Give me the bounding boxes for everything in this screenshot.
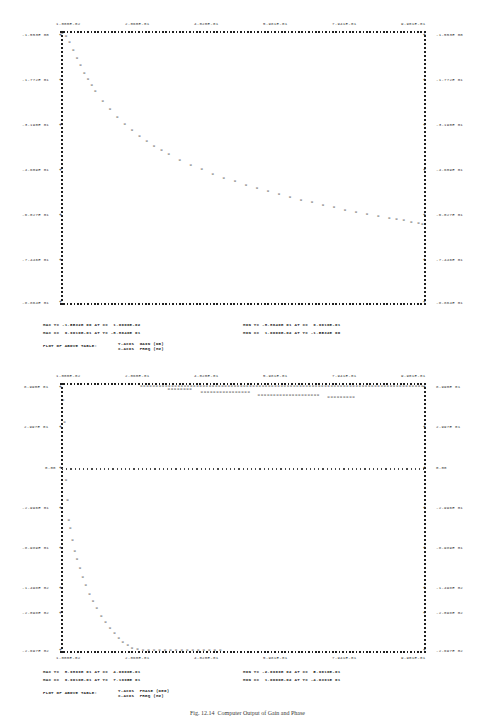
data-marker: X (204, 390, 207, 394)
data-marker: X (366, 212, 369, 216)
data-marker: X (90, 83, 93, 87)
data-marker: X (210, 390, 213, 394)
data-marker: X (318, 384, 321, 388)
data-marker: X (261, 393, 264, 397)
data-marker: X (334, 395, 337, 399)
data-marker: X (179, 158, 182, 162)
data-marker: X (245, 183, 248, 187)
data-marker: X (149, 384, 152, 388)
phase-ytick-left-6: -2.098E 02 (22, 611, 49, 616)
data-marker: X (156, 384, 159, 388)
data-marker: X (343, 395, 346, 399)
data-marker: X (279, 393, 282, 397)
data-marker: X (337, 395, 340, 399)
phase-ytick-right-4: -8.989E 01 (436, 546, 463, 551)
data-marker: X (314, 393, 317, 397)
data-marker: X (412, 384, 415, 388)
data-marker: X (190, 163, 193, 167)
data-marker: X (126, 643, 129, 647)
data-marker: X (305, 384, 308, 388)
phase-plot-of-label: PLOT OF ABOVE TABLE: (43, 691, 97, 696)
data-marker: X (264, 393, 267, 397)
gain-xaxis-label: X-AXIS FREQ (HZ) (118, 347, 164, 352)
gain-ytick-left-4: -6.027E 01 (22, 213, 49, 218)
data-marker: X (123, 122, 126, 126)
data-marker: X (402, 384, 405, 388)
data-marker: X (104, 620, 107, 624)
data-marker: X (226, 390, 229, 394)
data-marker: X (240, 384, 243, 388)
data-marker: X (334, 384, 337, 388)
data-marker: X (399, 384, 402, 388)
data-marker: X (223, 176, 226, 180)
data-marker: X (234, 384, 237, 388)
gain-ytick-left-0: -1.553E 00 (22, 33, 49, 38)
data-marker: X (368, 384, 371, 388)
gain-xtick-0: 1.000E-02 (56, 22, 80, 27)
data-marker: X (63, 420, 66, 424)
gain-stat-max-y: MAX Y= -1.5532E 00 AT X= 1.0000E-02 (43, 323, 140, 328)
data-marker: X (298, 393, 301, 397)
phase-xtick-top-1: 2.060E-01 (125, 374, 149, 379)
data-marker: X (168, 387, 171, 391)
data-marker: X (61, 31, 64, 35)
gain-ytick-right-3: -4.609E 01 (436, 168, 463, 173)
data-marker: X (199, 384, 202, 388)
data-marker: X (344, 208, 347, 212)
data-marker: X (287, 384, 290, 388)
phase-ytick-right-7: -2.697E 02 (436, 649, 463, 654)
data-marker: X (65, 478, 68, 482)
data-marker: X (152, 384, 155, 388)
data-marker: X (278, 192, 281, 196)
data-marker: X (271, 384, 274, 388)
data-marker: X (311, 393, 314, 397)
data-marker: X (235, 390, 238, 394)
data-marker: X (352, 395, 355, 399)
data-marker: X (88, 592, 91, 596)
data-marker: X (289, 195, 292, 199)
data-marker: X (255, 384, 258, 388)
phase-xtick-bottom-4: 7.941E-01 (332, 656, 356, 661)
data-marker: X (377, 214, 380, 218)
data-marker: X (180, 648, 183, 652)
phase-ytick-left-5: -1.498E 02 (22, 586, 49, 591)
data-marker: X (62, 398, 65, 402)
phase-ytick-left-4: -8.989E 01 (22, 546, 49, 551)
phase-xtick-top-2: 4.020E-01 (194, 374, 218, 379)
data-marker: X (224, 384, 227, 388)
data-marker: X (258, 393, 261, 397)
data-marker: X (340, 384, 343, 388)
data-marker: X (162, 384, 165, 388)
data-marker: X (421, 222, 424, 226)
data-marker: X (280, 384, 283, 388)
phase-xtick-top-5: 9.901E-01 (401, 374, 425, 379)
phase-stat-min-x: MIN X= 1.0000E-02 AT Y= -4.0391E 01 (243, 678, 340, 683)
data-marker: X (371, 384, 374, 388)
data-marker: X (180, 387, 183, 391)
data-marker: X (177, 387, 180, 391)
data-marker: X (131, 128, 134, 132)
data-marker: X (247, 390, 250, 394)
data-marker: X (418, 384, 421, 388)
gain-plot: 1.000E-02 2.060E-01 4.020E-01 5.981E-01 … (0, 0, 495, 360)
data-marker: X (68, 518, 71, 522)
gain-ytick-left-5: -7.446E 01 (22, 258, 49, 263)
gain-ytick-left-3: -4.609E 01 (22, 168, 49, 173)
data-marker: X (244, 390, 247, 394)
data-marker: X (300, 198, 303, 202)
data-marker: X (417, 221, 420, 225)
phase-ytick-right-1: 2.997E 01 (436, 425, 460, 430)
phase-xtick-bottom-3: 5.981E-01 (263, 656, 287, 661)
data-marker: X (284, 384, 287, 388)
data-marker: X (295, 393, 298, 397)
data-marker: X (355, 210, 358, 214)
data-marker: X (289, 393, 292, 397)
data-marker: X (349, 384, 352, 388)
phase-xtick-bottom-1: 2.060E-01 (125, 656, 149, 661)
data-marker: X (337, 384, 340, 388)
data-marker: X (307, 393, 310, 397)
gain-stat-min-y: MIN Y= -8.8640E 01 AT X= 9.9010E-01 (243, 323, 340, 328)
data-marker: X (219, 390, 222, 394)
data-marker: X (208, 648, 211, 652)
data-marker: X (383, 384, 386, 388)
